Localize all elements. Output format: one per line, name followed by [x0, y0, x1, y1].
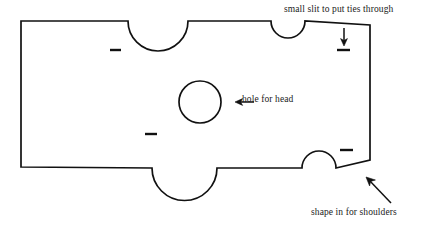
annotation-label-slit: small slit to put ties through	[284, 5, 393, 15]
pattern-outline-svg	[0, 0, 427, 229]
diagram-canvas: small slit to put ties through hole for …	[0, 0, 427, 229]
annotation-label-shoulders: shape in for shoulders	[311, 208, 397, 218]
head-hole-circle	[179, 81, 221, 123]
shoulders-annotation-arrow	[366, 177, 391, 203]
annotation-label-head: hole for head	[242, 95, 293, 105]
